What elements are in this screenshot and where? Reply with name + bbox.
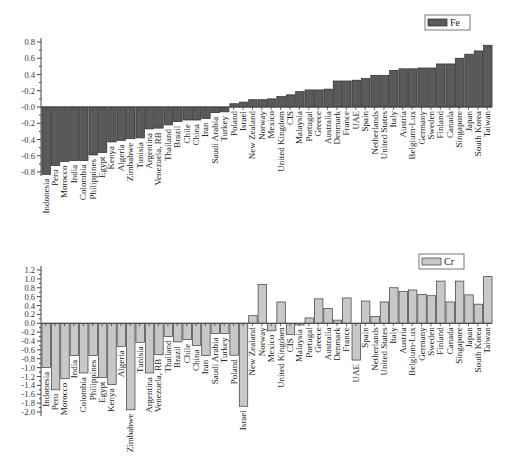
bar-philippines: [89, 107, 97, 155]
bar-taiwan: [484, 45, 492, 107]
bar-thailand: [164, 107, 172, 125]
bar-india: [70, 323, 78, 355]
bar-colombia: [80, 107, 88, 161]
x-category-label: Zimbabwe: [125, 414, 135, 453]
bar-iran: [202, 107, 210, 118]
bar-belgium-lux: [408, 290, 416, 323]
bar-south-korea: [474, 304, 482, 323]
bar-japan: [465, 295, 473, 323]
bar-germany: [418, 68, 426, 107]
bar-algeria: [117, 323, 125, 346]
bar-venezuela-rb: [155, 107, 163, 128]
bar-italy: [390, 288, 398, 324]
y-tick-label: -0.4: [22, 135, 36, 145]
bar-germany: [418, 294, 426, 323]
bar-singapore: [455, 58, 463, 107]
bar-cis: [286, 95, 294, 107]
y-tick-label: -2.0: [22, 407, 35, 417]
bar-india: [70, 107, 78, 161]
x-category-label: UAE: [351, 364, 361, 383]
bar-italy: [390, 70, 398, 107]
bar-netherlands: [371, 317, 379, 324]
bar-saudi-arabia: [211, 107, 219, 113]
bar-chile: [183, 107, 191, 120]
bar-netherlands: [371, 75, 379, 107]
x-category-label: Tunisia: [135, 346, 145, 373]
bar-australia: [324, 89, 332, 107]
y-tick-label: 0.4: [24, 70, 35, 80]
y-tick-label: -0.8: [22, 167, 35, 177]
legend: Fe: [425, 15, 470, 30]
bar-japan: [465, 54, 473, 107]
x-category-label: France: [341, 327, 351, 352]
bar-norway: [258, 100, 266, 107]
bar-spain: [361, 79, 369, 107]
legend-label: Cr: [444, 256, 455, 267]
bar-spain: [361, 301, 369, 323]
bar-united-states: [380, 302, 388, 323]
bar-turkey: [220, 323, 228, 333]
bar-united-kingdom: [277, 302, 285, 323]
bar-malaysia: [296, 92, 304, 107]
bar-israel: [239, 102, 247, 107]
y-tick-label: -0.2: [22, 86, 35, 96]
x-category-label: Morocco: [59, 382, 69, 415]
bar-taiwan: [484, 277, 492, 324]
bar-austria: [399, 291, 407, 323]
bar-egypt: [98, 323, 106, 377]
bar-france: [343, 81, 351, 107]
bar-morocco: [61, 107, 69, 161]
x-category-label: Algeria: [116, 350, 126, 377]
x-category-label: Taiwan: [482, 111, 492, 138]
x-category-label: Kenya: [106, 388, 116, 412]
fe-bar-chart: 0.80.60.4-0.2-0.0-0.2-0.4-0.6-0.8Indones…: [0, 0, 505, 240]
bar-egypt: [98, 107, 106, 153]
bar-saudi-arabia: [211, 323, 219, 333]
bar-brazil: [174, 107, 182, 122]
y-tick-label: 0.8: [24, 37, 35, 47]
y-tick-label: -0.6: [22, 151, 35, 161]
bar-kenya: [108, 107, 116, 142]
bar-portugal: [305, 90, 313, 107]
bar-chile: [183, 323, 191, 339]
bar-finland: [437, 64, 445, 107]
legend-label: Fe: [450, 17, 461, 28]
bar-brazil: [174, 323, 182, 342]
bar-argentina: [145, 107, 153, 129]
bar-peru: [51, 107, 59, 166]
bar-tunisia: [136, 323, 144, 342]
bar-china: [192, 323, 200, 345]
bar-peru: [51, 323, 59, 390]
bar-greece: [314, 90, 322, 107]
y-tick-label: 0.6: [24, 53, 35, 63]
bar-greece: [314, 299, 322, 323]
bar-france: [343, 298, 351, 323]
bar-portugal: [305, 318, 313, 323]
y-tick-label: -0.2: [22, 118, 35, 128]
bar-algeria: [117, 107, 125, 140]
legend: Cr: [419, 254, 464, 269]
bar-sweden: [427, 296, 435, 324]
bar-denmark: [333, 81, 341, 107]
bar-china: [192, 107, 200, 120]
legend-swatch: [422, 258, 441, 265]
bar-indonesia: [42, 107, 50, 174]
bar-new-zealand: [249, 100, 257, 107]
bar-united-kingdom: [277, 96, 285, 107]
bar-poland: [230, 323, 238, 355]
bar-south-korea: [474, 51, 482, 107]
bar-philippines: [89, 323, 97, 355]
bar-austria: [399, 69, 407, 107]
cr-bar-chart: 1.21.00.80.60.40.20.0-0.2-0.4-0.6-0.8-1.…: [0, 240, 505, 476]
bar-uae: [352, 80, 360, 107]
legend-swatch: [428, 19, 447, 26]
x-category-label: Israel: [238, 410, 248, 430]
bar-new-zealand: [249, 316, 257, 324]
bar-zimbabwe: [127, 107, 135, 139]
bar-finland: [437, 281, 445, 323]
bar-united-states: [380, 75, 388, 107]
bar-norway: [258, 285, 266, 324]
bar-singapore: [455, 281, 463, 323]
x-category-label: Taiwan: [482, 327, 492, 354]
bar-canada: [446, 64, 454, 107]
